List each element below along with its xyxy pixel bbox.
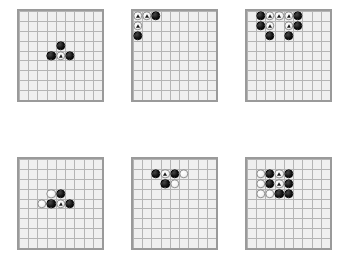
triangle-marker-icon xyxy=(277,172,282,177)
grid-line-horizontal xyxy=(19,11,102,12)
grid-line-horizontal xyxy=(19,60,102,61)
black-stone[interactable] xyxy=(65,51,74,60)
grid-line-vertical xyxy=(47,11,48,100)
grid-line-vertical xyxy=(142,159,143,248)
grid-line-vertical xyxy=(247,11,248,100)
stone-layer xyxy=(247,11,330,100)
grid-line-horizontal xyxy=(247,90,330,91)
black-stone[interactable] xyxy=(284,169,293,178)
black-stone[interactable] xyxy=(284,31,293,40)
grid-line-vertical xyxy=(265,11,266,100)
grid-line-horizontal xyxy=(133,179,216,180)
black-stone[interactable] xyxy=(265,169,274,178)
triangle-marker-icon xyxy=(135,24,140,29)
grid-line-horizontal xyxy=(133,159,216,160)
board-top-center[interactable] xyxy=(131,9,218,102)
grid-line-horizontal xyxy=(247,60,330,61)
grid-line-horizontal xyxy=(19,179,102,180)
grid-line-vertical xyxy=(216,159,217,248)
black-stone[interactable] xyxy=(151,169,160,178)
grid-line-horizontal xyxy=(133,248,216,249)
grid-line-vertical xyxy=(93,159,94,248)
grid-line-vertical xyxy=(216,11,217,100)
grid-line-vertical xyxy=(302,159,303,248)
grid-line-horizontal xyxy=(19,248,102,249)
grid-line-vertical xyxy=(312,159,313,248)
grid-line-horizontal xyxy=(133,100,216,101)
grid-line-vertical xyxy=(198,159,199,248)
black-stone[interactable] xyxy=(151,11,160,20)
stone-layer xyxy=(247,159,330,248)
black-stone[interactable] xyxy=(284,179,293,188)
black-stone[interactable] xyxy=(265,31,274,40)
grid-line-horizontal xyxy=(247,208,330,209)
grid-line-vertical xyxy=(302,11,303,100)
white-stone[interactable] xyxy=(170,179,179,188)
board-bottom-left[interactable] xyxy=(17,157,104,250)
stone-layer xyxy=(133,11,216,100)
white-stone[interactable] xyxy=(133,11,142,20)
grid-line-horizontal xyxy=(19,208,102,209)
white-stone[interactable] xyxy=(265,11,274,20)
grid-line-horizontal xyxy=(19,70,102,71)
black-stone[interactable] xyxy=(65,199,74,208)
grid-line-vertical xyxy=(293,11,294,100)
grid-line-horizontal xyxy=(247,11,330,12)
black-stone[interactable] xyxy=(56,41,65,50)
grid-line-vertical xyxy=(284,159,285,248)
grid-line-horizontal xyxy=(247,169,330,170)
board-top-left[interactable] xyxy=(17,9,104,102)
board-bottom-right[interactable] xyxy=(245,157,332,250)
white-stone[interactable] xyxy=(133,21,142,30)
grid-line-vertical xyxy=(330,11,331,100)
black-stone[interactable] xyxy=(133,31,142,40)
black-stone[interactable] xyxy=(293,11,302,20)
white-stone[interactable] xyxy=(179,169,188,178)
black-stone[interactable] xyxy=(293,21,302,30)
grid-line-horizontal xyxy=(247,189,330,190)
white-stone[interactable] xyxy=(284,11,293,20)
grid-line-horizontal xyxy=(247,41,330,42)
white-stone[interactable] xyxy=(265,189,274,198)
grid-line-horizontal xyxy=(19,238,102,239)
white-stone[interactable] xyxy=(56,51,65,60)
grid-line-vertical xyxy=(102,159,103,248)
white-stone[interactable] xyxy=(265,21,274,30)
black-stone[interactable] xyxy=(170,169,179,178)
black-stone[interactable] xyxy=(284,189,293,198)
grid-line-horizontal xyxy=(19,189,102,190)
grid-line-horizontal xyxy=(247,80,330,81)
grid-line-horizontal xyxy=(19,51,102,52)
grid-line-horizontal xyxy=(133,90,216,91)
grid-line-horizontal xyxy=(133,189,216,190)
white-stone[interactable] xyxy=(284,21,293,30)
grid-line-vertical xyxy=(84,11,85,100)
grid-line-vertical xyxy=(207,11,208,100)
stone-layer xyxy=(19,11,102,100)
grid-line-vertical xyxy=(151,11,152,100)
grid-line-horizontal xyxy=(133,31,216,32)
grid-line-vertical xyxy=(37,11,38,100)
go-diagram-page xyxy=(0,0,346,264)
white-stone[interactable] xyxy=(56,199,65,208)
white-stone[interactable] xyxy=(37,199,46,208)
triangle-marker-icon xyxy=(58,201,63,206)
grid-line-horizontal xyxy=(247,218,330,219)
grid-line-vertical xyxy=(265,159,266,248)
grid-line-horizontal xyxy=(19,90,102,91)
grid-line-horizontal xyxy=(133,41,216,42)
grid-line-horizontal xyxy=(133,228,216,229)
black-stone[interactable] xyxy=(56,189,65,198)
grid-line-horizontal xyxy=(247,70,330,71)
grid-line-vertical xyxy=(161,11,162,100)
board-bottom-center[interactable] xyxy=(131,157,218,250)
grid-line-vertical xyxy=(56,159,57,248)
black-stone[interactable] xyxy=(265,179,274,188)
grid-line-vertical xyxy=(47,159,48,248)
grid-line-vertical xyxy=(170,159,171,248)
grid-line-vertical xyxy=(275,159,276,248)
grid-line-vertical xyxy=(28,159,29,248)
grid-line-vertical xyxy=(207,159,208,248)
board-top-right[interactable] xyxy=(245,9,332,102)
grid-line-vertical xyxy=(84,159,85,248)
